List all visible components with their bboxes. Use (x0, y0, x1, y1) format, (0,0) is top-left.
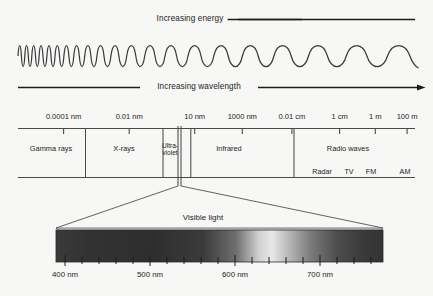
band-label-ultraviolet-line1: Ultra- (162, 142, 178, 149)
scale-tick-label-2: 10 nm (184, 113, 205, 121)
wavelength-label-600nm: 600 nm (222, 271, 248, 279)
scale-ticks (64, 129, 408, 135)
spectrum-scale (18, 126, 415, 186)
scale-tick-label-3: 1000 nm (228, 113, 257, 121)
band-label-x-rays: X-rays (113, 145, 134, 152)
scale-tick-label-0: 0.0001 nm (46, 113, 81, 121)
scale-tick-label-7: 100 m (397, 113, 418, 121)
energy-arrow-label: Increasing energy (153, 15, 228, 23)
scale-tick-label-5: 1 cm (331, 113, 347, 121)
band-label-gamma-rays: Gamma rays (30, 145, 72, 152)
visible-light-label: Visible light (183, 214, 223, 222)
band-label-radio-waves: Radio waves (327, 145, 369, 152)
visible-light-gradient-bar (56, 230, 383, 262)
scale-tick-label-6: 1 m (369, 113, 382, 121)
scale-tick-label-1: 0.01 nm (116, 113, 143, 121)
radio-sublabel-fm: FM (366, 168, 376, 175)
radio-sublabel-am: AM (400, 168, 411, 175)
band-label-ultraviolet: Ultra- violet (162, 142, 178, 157)
radio-sublabel-tv: TV (344, 168, 353, 175)
wavelength-label-400nm: 400 nm (52, 271, 78, 279)
chirp-wave (18, 46, 419, 69)
wavelength-label-500nm: 500 nm (137, 271, 163, 279)
visible-light-bar-group (56, 228, 383, 266)
radio-sublabel-radar: Radar (312, 168, 332, 175)
band-label-infrared: Infrared (216, 145, 241, 152)
band-dividers (86, 129, 295, 178)
scale-tick-label-4: 0.01 cm (279, 113, 306, 121)
band-label-ultraviolet-line2: violet (162, 149, 177, 156)
wavelength-arrow-label: Increasing wavelength (153, 83, 245, 91)
wavelength-label-700nm: 700 nm (307, 271, 333, 279)
